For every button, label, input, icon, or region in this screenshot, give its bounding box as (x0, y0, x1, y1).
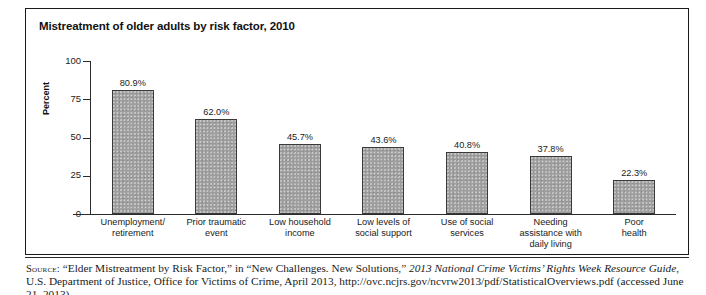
y-tick-mark (83, 61, 90, 62)
bar (530, 156, 572, 214)
bar-group: 40.8%Use of socialservices (425, 55, 509, 214)
bar (279, 144, 321, 214)
bar-group: 37.8%Needingassistance withdaily living (509, 55, 593, 214)
y-tick-mark (83, 176, 90, 177)
source-note: Source: “Elder Mistreatment by Risk Fact… (26, 262, 694, 295)
source-kicker: Source: (26, 263, 60, 274)
plot-area: Percent 0255075100 80.9%Unemployment/ret… (61, 55, 676, 215)
bar-value-label: 62.0% (203, 107, 229, 117)
y-tick-label: 50 (61, 131, 81, 142)
bar-value-label: 40.8% (454, 140, 480, 150)
x-category-label: Poorhealth (588, 217, 680, 239)
x-category-label: Prior traumaticevent (170, 217, 262, 239)
bar-value-label: 45.7% (287, 132, 313, 142)
x-category-label: Use of socialservices (421, 217, 513, 239)
bar (195, 119, 237, 214)
source-text-italic: 2013 National Crime Victims’ Rights Week… (409, 262, 676, 274)
bar-group: 45.7%Low householdincome (258, 55, 342, 214)
bar-value-label: 80.9% (120, 78, 146, 88)
y-tick-label: 100 (61, 55, 81, 66)
y-tick-mark (83, 214, 90, 215)
bar-value-label: 37.8% (538, 144, 564, 154)
bar (362, 147, 404, 214)
chart-title: Mistreatment of older adults by risk fac… (39, 20, 295, 32)
bar-group: 62.0%Prior traumaticevent (175, 55, 259, 214)
x-category-label: Low householdincome (254, 217, 346, 239)
x-category-label: Unemployment/retirement (87, 217, 179, 239)
bar (112, 90, 154, 214)
bar (446, 152, 488, 214)
y-tick-label: 25 (61, 169, 81, 180)
bar-series: 80.9%Unemployment/retirement62.0%Prior t… (91, 55, 676, 214)
source-divider (25, 257, 689, 258)
bar-group: 80.9%Unemployment/retirement (91, 55, 175, 214)
bar (613, 180, 655, 214)
x-category-label: Needingassistance withdaily living (505, 217, 597, 249)
y-tick-mark (83, 138, 90, 139)
bar-value-label: 43.6% (370, 135, 396, 145)
bar-value-label: 22.3% (621, 168, 647, 178)
figure-panel: Mistreatment of older adults by risk fac… (25, 8, 689, 255)
x-category-label: Low levels ofsocial support (337, 217, 429, 239)
y-tick-label: 0 (61, 208, 81, 219)
y-tick-label: 75 (61, 93, 81, 104)
source-text-1: “Elder Mistreatment by Risk Factor,” in … (60, 262, 409, 274)
bar-group: 22.3%Poorhealth (592, 55, 676, 214)
bar-group: 43.6%Low levels ofsocial support (342, 55, 426, 214)
y-axis-title: Percent (41, 82, 51, 115)
y-tick-mark (83, 99, 90, 100)
